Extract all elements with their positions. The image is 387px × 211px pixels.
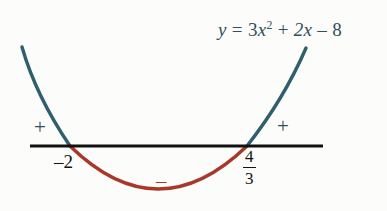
parabola-sign-chart-figure: y = 3x2 + 2x – 8 + – + –2 4 3 [0,0,387,211]
fraction-numerator: 4 [243,148,256,167]
equation-coefficient-3: 3 [248,19,258,40]
equation-operator-minus: – [317,19,327,40]
fraction-bar [243,167,256,168]
sign-label-left-positive: + [34,117,46,138]
equation-lhs: y [218,19,227,40]
equation-operator-plus: + [278,19,289,40]
x-intercept-label-right: 4 3 [243,148,256,188]
equation-label: y = 3x2 + 2x – 8 [218,20,342,39]
sign-label-middle-negative: – [156,171,167,192]
sign-label-right-positive: + [277,116,289,137]
x-intercept-label-left: –2 [54,152,73,171]
equation-term-2x: 2x [294,19,313,40]
curve-positive-left-branch [22,47,70,146]
equation-constant-8: 8 [332,19,342,40]
equation-equals: = [232,19,243,40]
fraction-four-thirds: 4 3 [243,148,256,188]
equation-exponent-2: 2 [266,19,272,32]
fraction-denominator: 3 [243,169,256,188]
